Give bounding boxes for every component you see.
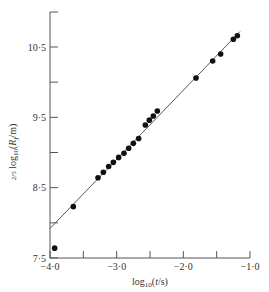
svg-text:2/5 log10(Rf/m): 2/5 log10(Rf/m) <box>7 124 20 181</box>
data-point <box>143 122 149 128</box>
data-point <box>210 58 216 64</box>
data-point <box>235 33 241 39</box>
data-point <box>101 169 107 175</box>
y-tick-label: 8·5 <box>33 182 46 193</box>
data-point <box>52 245 58 251</box>
y-axis-title: 2/5 log10(Rf/m) <box>7 124 20 181</box>
y-tick-label: 10·5 <box>28 42 46 53</box>
data-point <box>126 145 132 151</box>
x-tick-label: −3·0 <box>107 261 126 272</box>
data-point <box>136 136 142 142</box>
data-point <box>106 164 112 170</box>
data-point <box>151 113 157 119</box>
data-point <box>193 75 199 81</box>
x-tick-label: −2·0 <box>174 261 193 272</box>
data-point <box>147 117 153 123</box>
data-point <box>71 204 77 210</box>
x-axis: −4·0−3·0−2·0−1·0 <box>41 251 260 272</box>
data-point <box>155 108 161 114</box>
x-tick-label: −1·0 <box>241 261 260 272</box>
data-point <box>116 155 122 161</box>
data-point <box>111 160 117 166</box>
data-point <box>131 141 137 147</box>
svg-text:log10(t/s): log10(t/s) <box>132 276 168 289</box>
scatter-chart: −4·0−3·0−2·0−1·0 7·58·59·510·5 log10(t/s… <box>0 0 269 292</box>
data-points <box>52 33 240 251</box>
y-tick-label: 9·5 <box>33 112 46 123</box>
data-point <box>121 150 127 156</box>
data-point <box>218 51 224 57</box>
data-point <box>95 175 101 181</box>
y-tick-label: 7·5 <box>33 253 46 264</box>
x-axis-title: log10(t/s) <box>132 276 168 289</box>
y-axis: 7·58·59·510·5 <box>28 12 58 264</box>
